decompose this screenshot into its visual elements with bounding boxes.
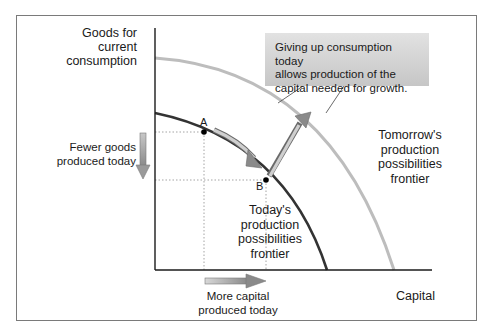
tomorrow-ppf-label: Tomorrow's production possibilities fron… — [365, 128, 455, 186]
callout-box: Giving up consumption today allows produ… — [265, 33, 429, 86]
more-capital-label: More capital produced today — [188, 290, 288, 317]
x-axis-label: Capital — [396, 290, 435, 304]
arrow-a-to-b-icon — [214, 130, 262, 168]
right-arrow-icon — [205, 274, 266, 288]
today-ppf-label: Today's production possibilities frontie… — [226, 203, 314, 261]
point-a — [201, 129, 207, 135]
fewer-goods-label: Fewer goods produced today — [40, 141, 136, 168]
point-b — [263, 177, 269, 183]
point-b-label: B — [256, 180, 263, 192]
point-a-label: A — [200, 116, 207, 128]
y-axis-label: Goods for current consumption — [60, 26, 137, 68]
arrow-growth-icon — [269, 112, 311, 176]
down-arrow-icon — [136, 133, 150, 179]
